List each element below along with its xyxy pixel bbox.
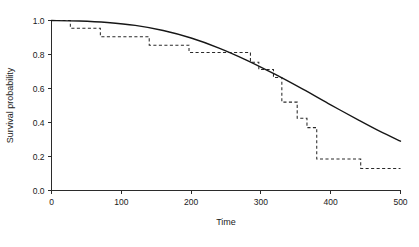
x-tick-label: 100 [114, 197, 128, 207]
y-tick-label: 1.0 [33, 16, 45, 26]
y-axis-title: Survival probability [5, 67, 15, 143]
x-axis-ticks: 0100200300400500 [49, 191, 408, 207]
survival-plot: 0.00.20.40.60.81.0 0100200300400500 Time… [0, 0, 419, 247]
fitted-survival-curve [52, 21, 401, 142]
x-tick-label: 300 [254, 197, 268, 207]
x-tick-label: 0 [49, 197, 54, 207]
x-tick-label: 500 [393, 197, 407, 207]
y-tick-label: 0.2 [33, 152, 45, 162]
y-tick-label: 0.8 [33, 50, 45, 60]
y-tick-label: 0.0 [33, 186, 45, 196]
y-tick-label: 0.4 [33, 118, 45, 128]
x-axis-title: Time [216, 217, 236, 227]
y-tick-label: 0.6 [33, 84, 45, 94]
chart-figure: 0.00.20.40.60.81.0 0100200300400500 Time… [0, 0, 419, 247]
kaplan-meier-step-curve [52, 21, 401, 169]
x-tick-label: 200 [184, 197, 198, 207]
x-tick-label: 400 [324, 197, 338, 207]
y-axis-ticks: 0.00.20.40.60.81.0 [33, 16, 52, 196]
